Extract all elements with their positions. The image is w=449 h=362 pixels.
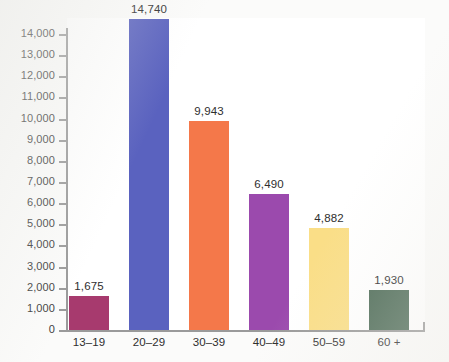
y-axis-tick-label: 5,000: [0, 217, 55, 229]
y-axis-tick-label: 2,000: [0, 281, 55, 293]
bar-group: 14,740: [129, 0, 169, 331]
y-axis-tick: [59, 309, 67, 311]
y-axis-tick-label: 9,000: [0, 133, 55, 145]
x-axis-line: [66, 330, 425, 332]
y-axis-tick: [59, 140, 67, 142]
bar-value-label: 6,490: [254, 178, 283, 190]
y-axis-tick-label: 12,000: [0, 69, 55, 81]
y-axis-tick: [59, 34, 67, 36]
bar-value-label: 1,675: [74, 280, 103, 292]
y-axis-line: [66, 28, 68, 332]
y-axis-tick: [59, 97, 67, 99]
x-axis-end-tick: [423, 322, 425, 331]
bar-group: 4,882: [309, 0, 349, 331]
y-axis-tick-label: 11,000: [0, 90, 55, 102]
y-axis-tick-label: 6,000: [0, 196, 55, 208]
y-axis-tick: [59, 224, 67, 226]
bar-group: 9,943: [189, 0, 229, 331]
bar-group: 1,930: [369, 0, 409, 331]
bar-value-label: 14,740: [131, 3, 167, 15]
y-axis-tick: [59, 182, 67, 184]
bar-value-label: 9,943: [194, 105, 223, 117]
y-axis-tick: [59, 76, 67, 78]
y-axis-tick-label: 0: [0, 323, 55, 335]
bar[interactable]: [309, 228, 349, 331]
bar[interactable]: [249, 194, 289, 331]
bar-group: 6,490: [249, 0, 289, 331]
bar[interactable]: [189, 121, 229, 331]
y-axis-tick-label: 13,000: [0, 48, 55, 60]
y-axis-tick: [59, 245, 67, 247]
y-axis-tick-label: 3,000: [0, 260, 55, 272]
bar-group: 1,675: [69, 0, 109, 331]
bar-chart: 01,0002,0003,0004,0005,0006,0007,0008,00…: [0, 0, 449, 362]
y-axis-tick-label: 1,000: [0, 302, 55, 314]
y-axis-tick: [59, 119, 67, 121]
bar[interactable]: [369, 290, 409, 331]
y-axis-tick: [59, 267, 67, 269]
y-axis-tick-label: 10,000: [0, 112, 55, 124]
bar[interactable]: [69, 296, 109, 331]
y-axis-tick: [59, 55, 67, 57]
y-axis-tick: [59, 330, 67, 332]
y-axis-tick-label: 8,000: [0, 154, 55, 166]
bar-value-label: 4,882: [314, 212, 343, 224]
y-axis-tick-label: 7,000: [0, 175, 55, 187]
bar-value-label: 1,930: [374, 274, 403, 286]
y-axis-tick: [59, 161, 67, 163]
bar[interactable]: [129, 19, 169, 331]
y-axis-tick: [59, 203, 67, 205]
x-axis-category-label: 60 +: [354, 336, 424, 348]
y-axis-tick: [59, 288, 67, 290]
y-axis-tick-label: 14,000: [0, 27, 55, 39]
y-axis-tick-label: 4,000: [0, 238, 55, 250]
